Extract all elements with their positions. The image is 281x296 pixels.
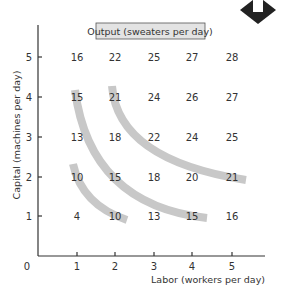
x-tick-4: 4 xyxy=(189,261,195,272)
x-tick-1: 1 xyxy=(74,261,80,272)
cell: 16 xyxy=(71,52,84,63)
x-axis-title: Labor (workers per day) xyxy=(151,274,265,285)
cell: 27 xyxy=(226,92,239,103)
cell: 24 xyxy=(148,92,161,103)
origin-label: 0 xyxy=(24,261,30,272)
cell: 10 xyxy=(109,211,122,222)
y-axis-title: Capital (machines per day) xyxy=(11,71,22,200)
cell: 22 xyxy=(109,52,122,63)
row-capital-4: 15 21 24 26 27 xyxy=(71,92,239,103)
cell: 13 xyxy=(71,132,84,143)
cell: 10 xyxy=(71,172,84,183)
chart: 0 1 2 3 4 5 5 4 3 2 1 Labor (workers per… xyxy=(0,0,281,296)
cell: 24 xyxy=(186,132,199,143)
cell: 15 xyxy=(109,172,122,183)
cell: 25 xyxy=(148,52,161,63)
cell: 26 xyxy=(186,92,199,103)
x-tick-5: 5 xyxy=(229,261,235,272)
cell: 18 xyxy=(148,172,161,183)
isoquant-curves xyxy=(73,86,246,220)
cell: 21 xyxy=(109,92,122,103)
cell: 28 xyxy=(226,52,239,63)
y-tick-2: 2 xyxy=(26,172,32,183)
y-tick-3: 3 xyxy=(26,132,32,143)
output-legend: Output (sweaters per day) xyxy=(87,23,213,39)
cell: 20 xyxy=(186,172,199,183)
y-tick-5: 5 xyxy=(26,52,32,63)
x-tick-3: 3 xyxy=(151,261,157,272)
y-tick-4: 4 xyxy=(26,92,32,103)
cell: 18 xyxy=(109,132,122,143)
y-tick-1: 1 xyxy=(26,211,32,222)
legend-label: Output (sweaters per day) xyxy=(87,26,213,37)
cell: 21 xyxy=(226,172,239,183)
row-capital-3: 13 18 22 24 25 xyxy=(71,132,239,143)
cell: 16 xyxy=(226,211,239,222)
cell: 13 xyxy=(148,211,161,222)
row-capital-1: 4 10 13 15 16 xyxy=(74,211,239,222)
cell: 4 xyxy=(74,211,80,222)
cell: 15 xyxy=(71,92,84,103)
down-arrow-badge-icon xyxy=(240,0,276,24)
cell: 25 xyxy=(226,132,239,143)
x-tick-2: 2 xyxy=(112,261,118,272)
cell: 27 xyxy=(186,52,199,63)
cell: 22 xyxy=(148,132,161,143)
cell: 15 xyxy=(186,211,199,222)
row-capital-5: 16 22 25 27 28 xyxy=(71,52,239,63)
